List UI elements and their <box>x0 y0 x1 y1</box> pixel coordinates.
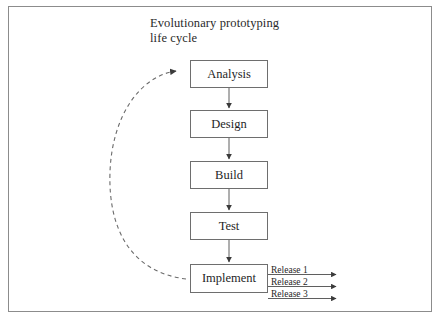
release-label-2: Release 2 <box>271 277 308 287</box>
diagram-canvas: Evolutionary prototyping life cycle Anal… <box>0 0 440 319</box>
node-design-label: Design <box>211 117 246 132</box>
node-implement-label: Implement <box>202 271 256 286</box>
node-build-label: Build <box>215 168 243 183</box>
feedback-loop-connector <box>110 71 186 279</box>
release-label-1: Release 1 <box>271 265 308 275</box>
node-analysis[interactable]: Analysis <box>190 60 268 88</box>
node-build[interactable]: Build <box>190 161 268 189</box>
node-design[interactable]: Design <box>190 110 268 138</box>
release-label-3: Release 3 <box>271 289 308 299</box>
node-implement[interactable]: Implement <box>190 264 268 293</box>
node-test-label: Test <box>219 219 240 234</box>
node-test[interactable]: Test <box>190 212 268 240</box>
node-analysis-label: Analysis <box>207 67 251 82</box>
